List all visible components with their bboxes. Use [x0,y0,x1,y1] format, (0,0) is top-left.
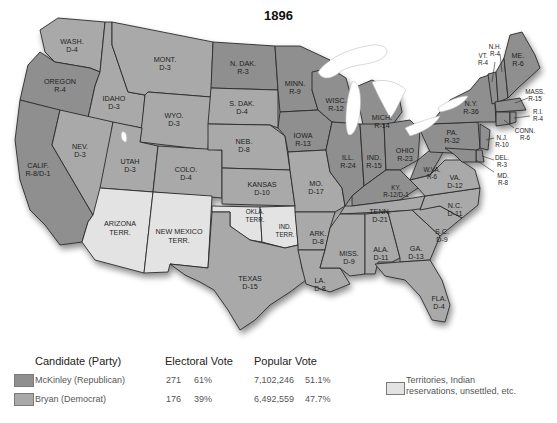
legend-header-electoral: Electoral Vote [165,355,233,367]
svg-text:MO.D-17: MO.D-17 [308,179,324,196]
legend-pv-bryan: 6,492,559 [254,394,294,404]
svg-text:TENN.D-21: TENN.D-21 [369,207,391,224]
legend-pv-mckinley: 7,102,246 [254,375,294,385]
svg-text:N.C.D-11: N.C.D-11 [447,201,462,218]
svg-text:WISC.R-12: WISC.R-12 [326,96,347,113]
svg-text:IOWAR-13: IOWAR-13 [294,131,313,148]
svg-text:CALIF.R-8/D-1: CALIF.R-8/D-1 [25,161,50,178]
svg-text:PA.R-32: PA.R-32 [444,128,460,145]
swatch-territory [386,382,405,395]
state-fla[interactable] [375,260,450,322]
svg-text:N.H.R-4: N.H.R-4 [489,43,502,57]
legend-territory-line2: reservations, unsettled, etc. [406,386,516,397]
svg-text:MD.R-8: MD.R-8 [497,172,509,186]
svg-text:R.I.R-4: R.I.R-4 [533,108,544,122]
svg-text:CONN.R-6: CONN.R-6 [515,127,536,141]
legend-pv-pct-mckinley: 51.1% [305,375,331,385]
state-nj[interactable] [480,124,490,150]
legend-candidate-mckinley: McKinley (Republican) [35,375,125,385]
leader-md [476,160,494,172]
svg-text:VT.R-4: VT.R-4 [478,52,489,66]
us-election-map: WASH.D-4 OREGONR-4 CALIF.R-8/D-1 IDAHOD-… [0,0,557,340]
svg-text:N.J.R-10: N.J.R-10 [495,134,509,148]
svg-text:MICH.R-14: MICH.R-14 [372,113,392,130]
legend-pv-pct-bryan: 47.7% [305,394,331,404]
legend-ev-bryan: 176 [166,394,181,404]
svg-text:NEV.D-3: NEV.D-3 [72,142,88,159]
legend-ev-pct-mckinley: 61% [194,375,212,385]
legend-header-candidate: Candidate (Party) [35,355,121,367]
svg-text:ME.R-6: ME.R-6 [512,51,525,68]
legend-candidate-bryan: Bryan (Democrat) [35,394,106,404]
swatch-democrat [14,393,34,406]
lake-superior [318,45,387,78]
legend-ev-pct-bryan: 39% [194,394,212,404]
svg-text:S.C.D-9: S.C.D-9 [435,227,449,244]
svg-text:OHIOR-23: OHIOR-23 [396,146,415,163]
legend: Candidate (Party) Electoral Vote Popular… [0,355,557,423]
state-conn[interactable] [496,112,510,126]
svg-text:DEL.R-3: DEL.R-3 [495,154,509,168]
svg-text:ALA.D-11: ALA.D-11 [373,245,389,262]
svg-text:LA.D-8: LA.D-8 [314,276,326,293]
legend-ev-mckinley: 271 [166,375,181,385]
svg-text:IND.R-15: IND.R-15 [366,153,382,170]
svg-text:MASS.R-15: MASS.R-15 [525,88,545,102]
svg-text:VA.D-12: VA.D-12 [447,173,463,190]
svg-text:GA.D-13: GA.D-13 [408,244,424,261]
svg-text:FLA.D-4: FLA.D-4 [431,294,446,311]
svg-text:N.Y.R-36: N.Y.R-36 [463,99,479,116]
swatch-republican [14,374,34,387]
legend-territory-note: Territories, Indian reservations, unsett… [406,375,516,397]
svg-text:ILL.R-24: ILL.R-24 [340,153,356,170]
svg-text:OKLA.TERR.: OKLA.TERR. [246,208,265,223]
legend-header-popular: Popular Vote [254,355,317,367]
legend-territory-line1: Territories, Indian [406,375,516,386]
